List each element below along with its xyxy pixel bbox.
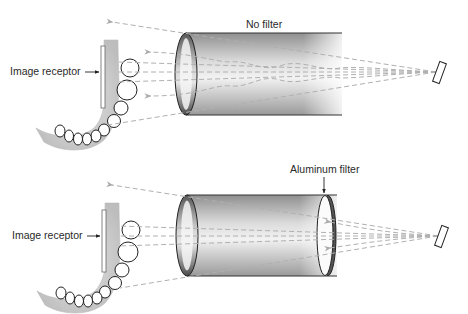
panel-aluminum-filter: [37, 177, 448, 313]
pid-cylinder: [175, 33, 342, 115]
mandible-arch: [36, 40, 139, 150]
no-filter-label: No filter: [246, 18, 282, 30]
image-receptor-label: Image receptor: [10, 65, 81, 77]
teeth: [46, 205, 140, 307]
image-receptor-label: Image receptor: [12, 229, 83, 241]
panel-no-filter: [36, 22, 446, 150]
image-receptor-plate: [101, 46, 105, 108]
mandible-arch: [37, 203, 140, 313]
aluminum-filter-label: Aluminum filter: [290, 163, 359, 175]
image-receptor-plate: [102, 210, 106, 272]
xray-filtration-diagram: [0, 0, 468, 314]
pid-cylinder: [176, 195, 337, 276]
diagram-stage: Image receptor No filter Image receptor …: [0, 0, 468, 314]
